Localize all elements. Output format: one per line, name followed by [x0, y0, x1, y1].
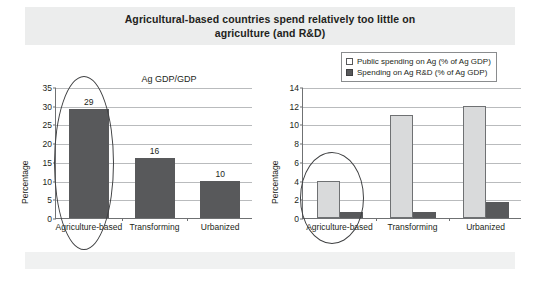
y-axis-tick-label: 6 — [294, 158, 299, 168]
y-axis-tick-label: 0 — [47, 214, 52, 224]
legend-label-public-spending: Public spending on Ag (% of Ag GDP) — [357, 57, 491, 66]
y-axis-tick-label: 14 — [290, 83, 299, 93]
bar-data-label: 16 — [150, 146, 159, 156]
y-axis-tick-label: 25 — [43, 120, 52, 130]
plot-area-left: 05101520253035Agriculture-based29Transfo… — [55, 88, 252, 219]
gridline — [303, 107, 521, 108]
slide-title-band: Agricultural-based countries spend relat… — [25, 7, 515, 45]
slide-footer-band — [25, 252, 515, 269]
y-axis-tick-label: 0 — [294, 214, 299, 224]
y-axis-tick-label: 20 — [43, 139, 52, 149]
bar — [463, 106, 486, 218]
bar — [413, 212, 436, 218]
page-title: Agricultural-based countries spend relat… — [125, 12, 416, 40]
bar — [69, 109, 109, 218]
page-title-line2: agriculture (and R&D) — [215, 27, 326, 39]
y-axis-tick-mark — [53, 144, 56, 145]
y-axis-tick-label: 10 — [290, 120, 299, 130]
legend-swatch-icon-public-spending — [346, 58, 353, 65]
slide-canvas: Agricultural-based countries spend relat… — [0, 0, 545, 281]
x-axis-tick-mark — [449, 218, 450, 221]
y-axis-tick-mark — [53, 88, 56, 89]
y-axis-tick-label: 12 — [290, 102, 299, 112]
y-axis-tick-mark — [300, 106, 303, 107]
y-axis-tick-label: 5 — [47, 195, 52, 205]
x-axis-tick-mark — [376, 218, 377, 221]
y-axis-tick-label: 15 — [43, 158, 52, 168]
y-axis-tick-label: 8 — [294, 139, 299, 149]
bar — [317, 181, 340, 218]
y-axis-tick-label: 10 — [43, 177, 52, 187]
y-axis-tick-label: 35 — [43, 83, 52, 93]
y-axis-label-right: Percentage — [270, 161, 280, 204]
y-axis-tick-mark — [300, 125, 303, 126]
y-axis-tick-mark — [53, 219, 56, 220]
bar — [135, 158, 175, 218]
y-axis-tick-mark — [53, 181, 56, 182]
legend-item-public-spending: Public spending on Ag (% of Ag GDP) — [346, 56, 491, 67]
y-axis-tick-mark — [300, 162, 303, 163]
y-axis-tick-label: 4 — [294, 177, 299, 187]
y-axis-tick-label: 2 — [294, 195, 299, 205]
bar — [390, 115, 413, 218]
x-axis-tick-mark — [187, 218, 188, 221]
y-axis-tick-mark — [300, 219, 303, 220]
bar — [340, 212, 363, 218]
bar — [200, 181, 240, 218]
y-axis-tick-mark — [300, 181, 303, 182]
y-axis-label-left: Percentage — [20, 161, 30, 204]
y-axis-tick-mark — [300, 144, 303, 145]
y-axis-tick-mark — [53, 200, 56, 201]
x-axis-tick-label: Urbanized — [466, 222, 505, 232]
page-title-line1: Agricultural-based countries spend relat… — [125, 13, 416, 25]
x-axis-tick-label: Transforming — [130, 222, 180, 232]
chart-ag-spending: Percentage 02468101214Agriculture-basedT… — [268, 72, 536, 242]
x-axis-tick-label: Transforming — [388, 222, 438, 232]
y-axis-tick-mark — [53, 125, 56, 126]
y-axis-tick-mark — [300, 200, 303, 201]
bar-data-label: 10 — [215, 169, 224, 179]
y-axis-tick-mark — [300, 88, 303, 89]
chart-ag-gdp-share: Ag GDP/GDP Percentage 05101520253035Agri… — [14, 72, 260, 242]
x-axis-tick-label: Agriculture-based — [306, 222, 373, 232]
x-axis-tick-mark — [122, 218, 123, 221]
chart-title-left: Ag GDP/GDP — [141, 74, 196, 84]
gridline — [303, 88, 521, 89]
gridline — [56, 88, 252, 89]
y-axis-tick-label: 30 — [43, 102, 52, 112]
x-axis-tick-label: Urbanized — [201, 222, 240, 232]
plot-area-right: 02468101214Agriculture-basedTransforming… — [302, 88, 521, 219]
y-axis-tick-mark — [53, 162, 56, 163]
bar-data-label: 29 — [84, 97, 93, 107]
y-axis-tick-mark — [53, 106, 56, 107]
x-axis-tick-label: Agriculture-based — [56, 222, 123, 232]
bar — [486, 202, 509, 218]
